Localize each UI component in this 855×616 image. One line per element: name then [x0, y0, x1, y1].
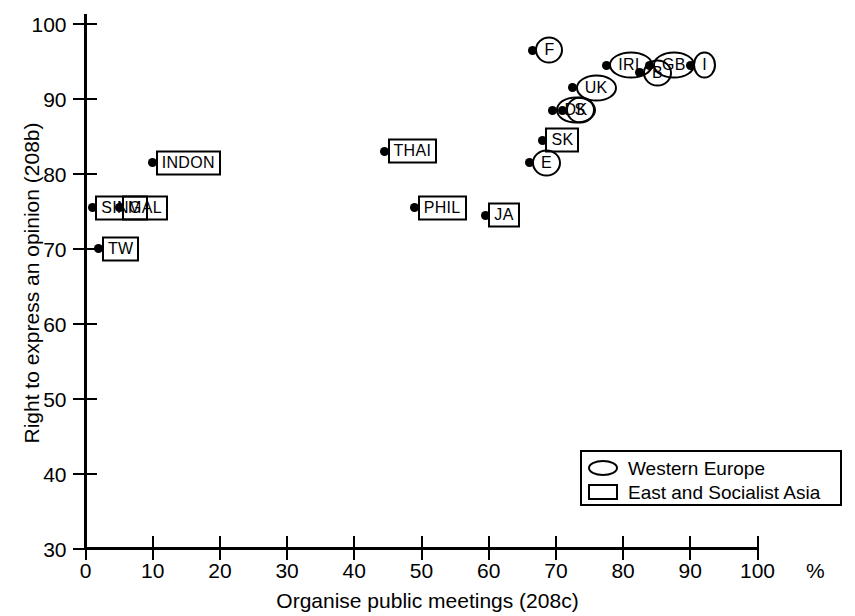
data-point-f: [528, 46, 537, 55]
y-tick-60: [73, 323, 97, 325]
data-point-i: [686, 61, 695, 70]
x-tick-80: [622, 536, 624, 560]
x-tick-label-20: 20: [190, 560, 250, 581]
x-tick-label-100: 100: [728, 560, 788, 581]
x-tick-label-70: 70: [526, 560, 586, 581]
x-tick-0: [85, 536, 87, 560]
data-point-thai: [380, 147, 389, 156]
legend-item-east-socialist-asia: East and Socialist Asia: [588, 481, 834, 503]
scatter-plot: 30405060708090100 0102030405060708090100…: [0, 0, 855, 616]
y-tick-90: [73, 98, 97, 100]
y-axis-line: [84, 14, 87, 549]
point-label-thai: THAI: [388, 139, 438, 164]
point-label-ja: JA: [488, 203, 519, 228]
y-tick-70: [73, 248, 97, 250]
x-tick-50: [421, 536, 423, 560]
x-tick-label-40: 40: [324, 560, 384, 581]
y-tick-50: [73, 398, 97, 400]
point-label-uk: UK: [576, 74, 617, 101]
data-point-s: [558, 106, 567, 115]
legend-item-western-europe: Western Europe: [588, 457, 834, 479]
point-label-i: I: [693, 52, 716, 79]
data-point-sk: [538, 136, 547, 145]
x-tick-label-80: 80: [593, 560, 653, 581]
x-tick-label-60: 60: [459, 560, 519, 581]
y-tick-100: [73, 23, 97, 25]
x-tick-label-10: 10: [123, 560, 183, 581]
y-tick-80: [73, 173, 97, 175]
data-point-irl: [602, 61, 611, 70]
x-tick-label-30: 30: [257, 560, 317, 581]
x-tick-40: [353, 536, 355, 560]
x-tick-60: [488, 536, 490, 560]
x-tick-100: [757, 536, 759, 560]
x-tick-70: [555, 536, 557, 560]
data-point-sing: [88, 203, 97, 212]
point-label-e: E: [532, 149, 561, 176]
point-label-phil: PHIL: [418, 195, 467, 220]
data-point-mal: [115, 203, 124, 212]
x-tick-label-90: 90: [660, 560, 720, 581]
data-point-e: [525, 158, 534, 167]
point-label-f: F: [535, 37, 563, 64]
rect-marker-icon: [588, 484, 618, 500]
x-tick-10: [152, 536, 154, 560]
legend-label-east-socialist-asia: East and Socialist Asia: [628, 483, 820, 502]
x-tick-30: [286, 536, 288, 560]
legend: Western Europe East and Socialist Asia: [580, 450, 842, 506]
x-axis-unit-label: %: [806, 560, 825, 581]
x-tick-label-0: 0: [56, 560, 116, 581]
point-label-indon: INDON: [156, 150, 221, 175]
x-tick-20: [219, 536, 221, 560]
x-axis-title: Organise public meetings (208c): [0, 590, 855, 612]
y-axis-title: Right to express an opinion (208b): [21, 23, 43, 543]
x-tick-90: [689, 536, 691, 560]
data-point-ja: [481, 211, 490, 220]
point-label-tw: TW: [102, 236, 139, 261]
ellipse-marker-icon: [588, 460, 618, 476]
y-tick-40: [73, 473, 97, 475]
legend-label-western-europe: Western Europe: [628, 459, 765, 478]
data-point-dk: [548, 106, 557, 115]
point-label-mal: MAL: [122, 195, 168, 220]
x-tick-label-50: 50: [392, 560, 452, 581]
